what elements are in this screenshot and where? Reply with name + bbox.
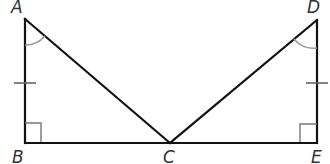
segment-dc — [170, 20, 317, 143]
label-a: A — [10, 0, 23, 17]
right-angle-marker-e — [300, 124, 317, 142]
triangle-dec — [170, 20, 317, 143]
label-c: C — [163, 147, 175, 164]
label-b: B — [12, 147, 24, 164]
label-e: E — [311, 147, 322, 164]
geometry-diagram: A B C D E — [0, 0, 330, 164]
triangle-abc — [25, 19, 170, 143]
segment-ac — [25, 19, 170, 143]
angle-arc-d — [294, 39, 317, 48]
right-angle-marker-b — [25, 123, 41, 142]
angle-arc-a — [25, 36, 45, 45]
label-d: D — [307, 0, 320, 17]
